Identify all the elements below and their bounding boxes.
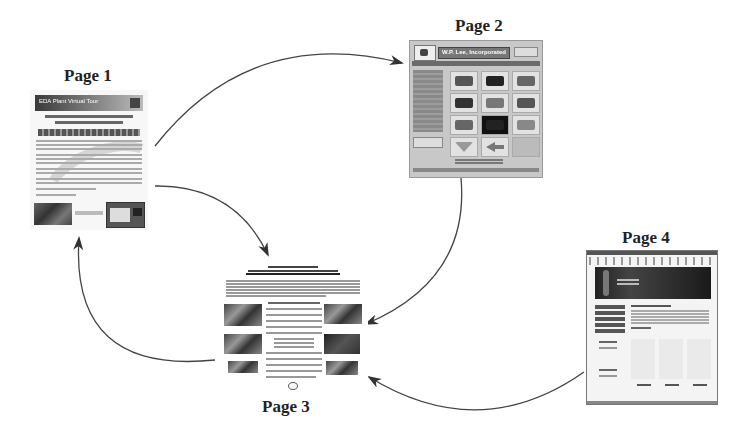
text-line bbox=[599, 375, 617, 377]
text-line bbox=[36, 144, 142, 146]
text-line bbox=[36, 148, 142, 150]
text-line bbox=[226, 283, 360, 285]
text-line bbox=[599, 347, 617, 349]
text-line bbox=[599, 341, 617, 343]
text-line bbox=[36, 140, 142, 142]
page2-tile bbox=[481, 137, 509, 157]
text-line bbox=[631, 319, 709, 321]
arrow-page2-to-page3 bbox=[366, 178, 462, 324]
page2-tile bbox=[450, 93, 478, 113]
text-line bbox=[36, 188, 96, 190]
page1-header-banner: EDA Plant Virtual Tour bbox=[35, 95, 143, 111]
page2-sidebar-button bbox=[413, 137, 443, 148]
text-line bbox=[665, 384, 679, 386]
page1-caption bbox=[75, 211, 103, 215]
text-line bbox=[36, 182, 142, 184]
page1-header-text: EDA Plant Virtual Tour bbox=[39, 98, 98, 104]
page2-tile bbox=[481, 115, 509, 135]
text-line bbox=[226, 289, 360, 291]
page3-subheadline bbox=[248, 270, 338, 272]
text-line bbox=[266, 308, 322, 310]
page1-title-line bbox=[45, 115, 133, 118]
text-line bbox=[266, 314, 322, 316]
text-line bbox=[266, 332, 322, 334]
text-line bbox=[631, 322, 709, 324]
page3-thumbnail bbox=[218, 264, 368, 394]
text-line bbox=[266, 352, 322, 354]
text-line bbox=[599, 369, 617, 371]
text-line bbox=[455, 159, 503, 161]
text-line bbox=[36, 178, 142, 180]
page2-company-name: W.P. Lee, Incorporated bbox=[438, 47, 510, 59]
text-line bbox=[266, 364, 322, 366]
page2-sidebar bbox=[413, 70, 443, 132]
text-line bbox=[274, 342, 314, 344]
page4-heading bbox=[631, 305, 671, 307]
page4-label: Page 4 bbox=[622, 228, 670, 248]
page3-photo bbox=[224, 334, 262, 354]
arrow-page3-to-page1 bbox=[78, 238, 215, 361]
page4-nav-item bbox=[595, 329, 625, 333]
text-line bbox=[36, 194, 76, 196]
text-line bbox=[631, 310, 709, 312]
text-line bbox=[631, 313, 709, 315]
page3-headline bbox=[268, 266, 318, 268]
arrow-page1-to-page3 bbox=[155, 186, 268, 255]
page4-title-bar bbox=[587, 251, 717, 255]
text-line bbox=[637, 384, 651, 386]
page3-logo-icon bbox=[288, 382, 298, 390]
text-line bbox=[226, 286, 360, 288]
page4-column bbox=[631, 339, 655, 379]
page1-headline bbox=[38, 129, 140, 136]
page4-column bbox=[659, 339, 683, 379]
page3-photo bbox=[324, 334, 360, 354]
page2-tile bbox=[450, 71, 478, 91]
page2-tile bbox=[450, 115, 478, 135]
text-line bbox=[226, 292, 360, 294]
page3-photo bbox=[324, 304, 362, 324]
text-line bbox=[36, 172, 142, 174]
page4-thumbnail bbox=[586, 250, 718, 405]
page2-tile bbox=[450, 137, 478, 157]
page3-label: Page 3 bbox=[262, 397, 310, 417]
text-line bbox=[693, 384, 707, 386]
page3-photo bbox=[326, 361, 358, 375]
page1-logo-icon bbox=[130, 98, 140, 108]
text-line bbox=[36, 158, 142, 160]
arrow-page4-to-page3 bbox=[369, 372, 584, 410]
text-line bbox=[36, 154, 142, 156]
text-line bbox=[268, 302, 320, 304]
page2-tile bbox=[481, 93, 509, 113]
text-line bbox=[266, 358, 322, 360]
page3-subheadline bbox=[246, 273, 340, 275]
text-line bbox=[266, 326, 322, 328]
text-line bbox=[266, 376, 316, 378]
text-line bbox=[266, 320, 322, 322]
page2-company-text: W.P. Lee, Incorporated bbox=[442, 49, 506, 55]
page4-column bbox=[687, 339, 711, 379]
page2-tile bbox=[481, 71, 509, 91]
page4-nav-item bbox=[595, 305, 625, 309]
page2-tile bbox=[512, 93, 540, 113]
text-line bbox=[266, 370, 322, 372]
text-line bbox=[274, 338, 314, 340]
page1-screenshot-image bbox=[106, 202, 145, 228]
page1-photo bbox=[34, 203, 72, 225]
page4-nav-item bbox=[595, 317, 625, 321]
text-line bbox=[274, 346, 314, 348]
page3-photo bbox=[228, 361, 258, 373]
page4-hero-banner bbox=[595, 267, 711, 299]
page2-tile bbox=[512, 71, 540, 91]
page1-thumbnail: EDA Plant Virtual Tour bbox=[30, 90, 148, 230]
page2-nav-bar bbox=[412, 61, 540, 66]
page3-photo bbox=[224, 304, 262, 326]
page2-label: Page 2 bbox=[455, 16, 503, 36]
text-line bbox=[631, 327, 651, 329]
text-line bbox=[455, 162, 503, 164]
text-line bbox=[36, 168, 142, 170]
arrow-page1-to-page2 bbox=[155, 54, 402, 146]
page2-tile bbox=[512, 137, 540, 157]
text-line bbox=[226, 295, 326, 297]
page1-label: Page 1 bbox=[64, 66, 112, 86]
page4-nav-item bbox=[595, 311, 625, 315]
